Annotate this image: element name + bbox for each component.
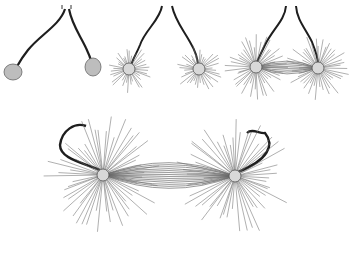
- apex-stub: [62, 5, 71, 9]
- stage-3-panel: [225, 6, 349, 100]
- thread-right: [172, 6, 198, 66]
- centrosome-body: [229, 170, 241, 182]
- aster-right: [177, 46, 221, 90]
- stage-2-panel: [109, 6, 221, 93]
- thread-left: [131, 6, 162, 66]
- stage-4-panel: [44, 117, 287, 232]
- thread-left: [15, 9, 65, 70]
- aster-left: [225, 34, 288, 99]
- centrosome-body: [250, 61, 262, 73]
- stage-1-panel: [4, 5, 101, 80]
- centrosome-body: [312, 62, 324, 74]
- centrosome-body: [97, 169, 109, 181]
- spindle-formation-figure: [0, 0, 353, 260]
- aster-left: [109, 49, 150, 93]
- centrosome-body: [123, 63, 135, 75]
- centrosome-body-right: [85, 58, 101, 76]
- centrosome-body: [193, 63, 205, 75]
- thread-right: [69, 9, 92, 64]
- centrosome-body-left: [4, 64, 22, 80]
